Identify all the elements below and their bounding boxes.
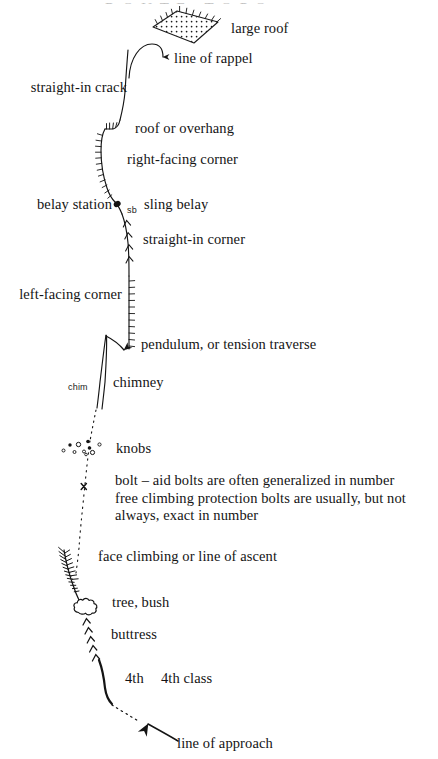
label-belay-station: belay station [0, 196, 112, 213]
pendulum-symbol [106, 336, 124, 350]
label-line-of-approach: line of approach [177, 735, 273, 752]
label-large-roof: large roof [231, 20, 289, 37]
line-of-approach-symbol [148, 724, 178, 741]
tree-bush-symbol [74, 598, 97, 614]
label-pendulum: pendulum, or tension traverse [141, 336, 316, 353]
label-chim-marker: chim [68, 379, 88, 396]
label-bolt-description: bolt – aid bolts are often generalized i… [115, 472, 435, 525]
straight-in-corner-symbol [122, 214, 133, 276]
label-fourth-class: 4th class [161, 670, 212, 687]
label-fourth-marker: 4th [125, 670, 144, 687]
face-climbing-symbol [76, 410, 96, 573]
topo-legend-artwork [0, 0, 438, 759]
belay-station-symbol [113, 200, 122, 214]
label-straight-in-crack: straight-in crack [0, 79, 127, 96]
label-knobs: knobs [116, 440, 151, 457]
left-facing-corner-symbol [129, 276, 135, 349]
large-roof-symbol [153, 6, 221, 43]
knobs-symbol [62, 440, 101, 456]
right-facing-corner-symbol [96, 129, 116, 202]
fourth-class-symbol [99, 660, 112, 704]
label-sb-marker: sb [127, 202, 137, 219]
buttress-symbol [83, 619, 100, 661]
label-right-facing-corner: right-facing corner [127, 151, 238, 168]
chimney-symbol [97, 335, 107, 409]
label-chimney: chimney [113, 374, 164, 391]
topo-legend-page: R O U T E T O P O [0, 0, 438, 759]
bolt-symbol [81, 484, 86, 490]
label-sling-belay: sling belay [144, 196, 208, 213]
roof-overhang-symbol [105, 120, 120, 129]
label-straight-in-corner: straight-in corner [143, 231, 245, 248]
label-tree-bush: tree, bush [112, 594, 169, 611]
rappel-arrow-symbol [129, 44, 163, 78]
label-buttress: buttress [111, 626, 157, 643]
label-left-facing-corner: left-facing corner [0, 286, 122, 303]
face-climbing-hatch-symbol [59, 547, 79, 600]
label-roof-or-overhang: roof or overhang [135, 120, 234, 137]
label-line-of-rappel: line of rappel [174, 50, 253, 67]
approach-trail-symbol [112, 705, 140, 722]
label-face-climbing: face climbing or line of ascent [98, 548, 277, 565]
